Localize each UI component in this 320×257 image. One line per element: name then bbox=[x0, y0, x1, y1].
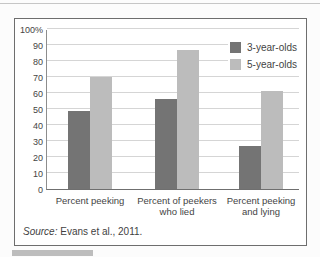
y-axis-tick-label: 30 bbox=[33, 137, 43, 147]
legend-item: 3-year-olds bbox=[228, 41, 299, 54]
gridline bbox=[47, 28, 299, 29]
legend-label: 5-year-olds bbox=[247, 59, 297, 70]
legend-label: 3-year-olds bbox=[247, 42, 297, 53]
legend-swatch-5-year-olds bbox=[230, 59, 241, 70]
legend-swatch-3-year-olds bbox=[230, 42, 241, 53]
bar-5-year-olds bbox=[90, 77, 112, 189]
legend: 3-year-olds5-year-olds bbox=[228, 41, 299, 75]
source-note: Source: Evans et al., 2011. bbox=[23, 226, 142, 237]
legend-item: 5-year-olds bbox=[228, 58, 299, 71]
y-axis-tick-label: 80 bbox=[33, 57, 43, 67]
bottom-gray-strip bbox=[12, 250, 93, 256]
y-axis-tick-label: 60 bbox=[33, 89, 43, 99]
bar-group bbox=[68, 30, 112, 189]
y-axis-tick-label: 90 bbox=[33, 41, 43, 51]
bar-5-year-olds bbox=[177, 50, 199, 189]
y-axis-tick-label: 70 bbox=[33, 73, 43, 83]
chart-frame: 100%9080706050403020100 Percent peekingP… bbox=[14, 18, 307, 246]
bar-3-year-olds bbox=[239, 146, 261, 189]
y-axis-tick-label: 100% bbox=[20, 25, 43, 35]
source-label: Source: bbox=[23, 226, 57, 237]
y-axis-tick-labels: 100%9080706050403020100 bbox=[15, 30, 43, 190]
y-axis-tick-label: 40 bbox=[33, 121, 43, 131]
y-axis-tick-label: 0 bbox=[38, 185, 43, 195]
y-axis-tick-label: 10 bbox=[33, 169, 43, 179]
category-label: Percent peeking and lying bbox=[206, 195, 316, 217]
y-axis-tick-label: 50 bbox=[33, 105, 43, 115]
top-divider-line bbox=[0, 3, 320, 4]
source-text: Evans et al., 2011. bbox=[57, 226, 142, 237]
bar-3-year-olds bbox=[155, 99, 177, 189]
bar-group bbox=[155, 30, 199, 189]
bar-3-year-olds bbox=[68, 111, 90, 189]
bar-5-year-olds bbox=[261, 91, 283, 189]
y-axis-tick-label: 20 bbox=[33, 153, 43, 163]
